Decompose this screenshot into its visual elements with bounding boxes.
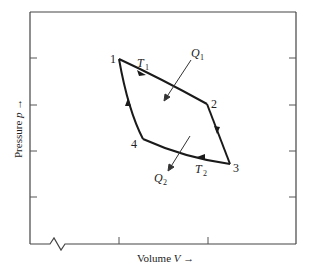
svg-text:Volume V →: Volume V → — [137, 252, 194, 264]
svg-text:2: 2 — [203, 169, 207, 178]
point-3-label: 3 — [233, 161, 239, 175]
svg-text:T: T — [195, 162, 203, 176]
path-2-3 — [207, 104, 230, 164]
q1-label: Q 1 — [191, 46, 204, 62]
path-4-1 — [119, 59, 143, 139]
svg-text:1: 1 — [200, 53, 204, 62]
cycle-arrows — [125, 70, 220, 160]
svg-text:T: T — [137, 56, 145, 70]
plot-frame — [30, 12, 296, 250]
t2-label: T 2 — [195, 162, 207, 178]
svg-text:2: 2 — [163, 178, 167, 187]
y-axis-label: Pressure p → — [12, 99, 24, 158]
svg-text:Pressure p →: Pressure p → — [12, 99, 24, 158]
point-2-label: 2 — [211, 97, 217, 111]
t1-label: T 1 — [137, 56, 149, 72]
svg-text:Q: Q — [154, 171, 163, 185]
svg-text:1: 1 — [145, 63, 149, 72]
q1-arrow-icon — [164, 94, 170, 101]
arrow-4-1-icon — [125, 98, 131, 106]
svg-text:Q: Q — [191, 46, 200, 60]
q2-arrow-icon — [168, 164, 174, 171]
path-3-4 — [143, 139, 230, 164]
pv-diagram: 1 2 3 4 T 1 T 2 Q 1 Q 2 Volume V → Press… — [0, 0, 311, 275]
q2-label: Q 2 — [154, 171, 167, 187]
path-1-2 — [119, 59, 207, 104]
point-1-label: 1 — [110, 52, 116, 66]
axis-ticks — [30, 58, 296, 244]
q2-arrow-line — [170, 136, 190, 168]
x-axis-label: Volume V → — [137, 252, 194, 264]
point-4-label: 4 — [131, 137, 137, 151]
